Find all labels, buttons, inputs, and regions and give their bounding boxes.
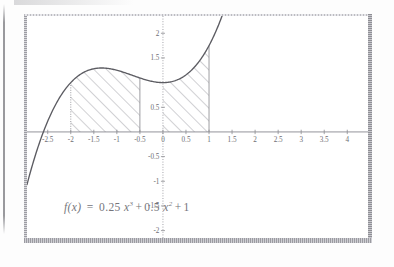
frame-bottom-border xyxy=(24,238,372,243)
x-tick-label: 1.5 xyxy=(228,136,237,144)
function-formula: f(x) = 0.25 x3+0.5 x2+1 xyxy=(64,200,190,213)
left-integral-region xyxy=(71,68,140,132)
x-tick-label: 0.5 xyxy=(181,136,190,144)
scan-page-edge xyxy=(3,4,5,234)
formula-constant: 1 xyxy=(184,201,190,213)
x-tick-label: -1 xyxy=(114,136,120,144)
scan-smudge xyxy=(14,0,134,5)
x-tick-label: -2.5 xyxy=(42,136,54,144)
x-tick-label: -0.5 xyxy=(134,136,146,144)
formula-equals: = xyxy=(85,201,96,213)
x-tick-label: 1 xyxy=(207,136,211,144)
x-tick-label: 0 xyxy=(161,136,165,144)
y-tick-label: 0.5 xyxy=(150,104,159,112)
y-tick-label: 2 xyxy=(156,30,160,38)
formula-coef-quad: 0.5 xyxy=(144,201,160,213)
x-tick-label: -2 xyxy=(68,136,74,144)
formula-plus-1: + xyxy=(133,201,144,213)
formula-fx: f(x) xyxy=(64,201,82,213)
y-tick-label: -1 xyxy=(153,178,159,186)
frame-right-border xyxy=(368,14,372,243)
right-integral-region xyxy=(163,46,209,132)
x-tick-label: 4 xyxy=(345,136,349,144)
figure-frame: -2.5-2-1.5-1-0.500.511.522.533.5421.50.5… xyxy=(24,14,372,243)
x-tick-label: 2 xyxy=(253,136,257,144)
formula-plus-2: + xyxy=(173,201,184,213)
x-tick-label: 3 xyxy=(299,136,303,144)
formula-coef-cubic: 0.25 xyxy=(99,201,121,213)
x-tick-label: 2.5 xyxy=(274,136,283,144)
x-tick-label: 3.5 xyxy=(320,136,329,144)
y-tick-label: -2 xyxy=(153,227,159,235)
y-tick-label: -0.5 xyxy=(148,153,160,161)
y-tick-label: 1.5 xyxy=(150,54,159,62)
x-tick-label: -1.5 xyxy=(88,136,100,144)
